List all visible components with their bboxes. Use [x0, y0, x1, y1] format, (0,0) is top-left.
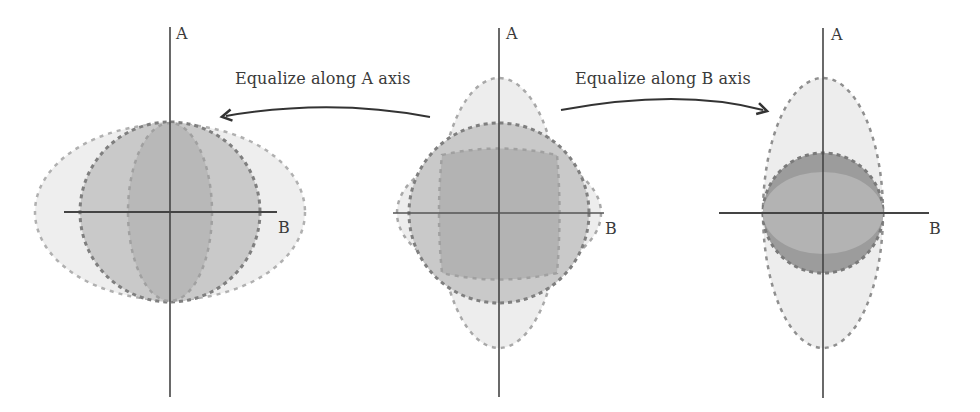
center-axis-label-a: A	[506, 26, 518, 42]
diagram-canvas	[0, 0, 980, 412]
right-axis-label-a: A	[831, 27, 843, 43]
arrow-equalize-b	[561, 99, 763, 110]
arrow-equalize-a	[226, 107, 430, 117]
right-axis-label-b: B	[929, 221, 941, 237]
panel-center	[393, 28, 604, 397]
caption-equalize-b: Equalize along B axis	[575, 71, 751, 87]
diagram-stage: A B A B A B Equalize along A axis Equali…	[0, 0, 980, 412]
caption-equalize-a: Equalize along A axis	[235, 71, 411, 87]
left-axis-label-b: B	[278, 220, 290, 236]
left-axis-label-a: A	[176, 26, 188, 42]
center-axis-label-b: B	[605, 221, 617, 237]
